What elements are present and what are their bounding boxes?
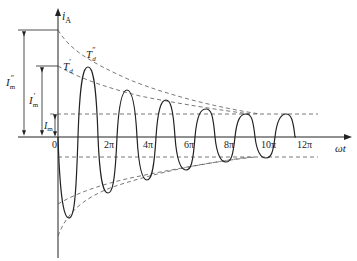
x-axis-label: ωt xyxy=(335,142,347,154)
waveform-diagram: iA ωt 0 2π 4π 6π 8π 10π 12π Td″ Td′ Im″ … xyxy=(0,0,357,261)
subtransient-envelope-lower xyxy=(58,157,255,236)
steady-amplitude-label: Im xyxy=(43,120,53,133)
tick-2pi: 2π xyxy=(104,139,114,150)
transient-envelope-label: Td′ xyxy=(63,58,73,75)
y-axis-label: iA xyxy=(62,9,71,25)
tick-8pi: 8π xyxy=(224,139,234,150)
origin-label: 0 xyxy=(52,139,57,150)
tick-12pi: 12π xyxy=(297,139,312,150)
tick-10pi: 10π xyxy=(261,139,276,150)
transient-amplitude-label: Im′ xyxy=(28,92,39,109)
tick-4pi: 4π xyxy=(143,139,153,150)
subtransient-amplitude-label: Im″ xyxy=(5,74,16,91)
tick-6pi: 6π xyxy=(184,139,194,150)
subtransient-envelope-upper xyxy=(58,30,260,114)
